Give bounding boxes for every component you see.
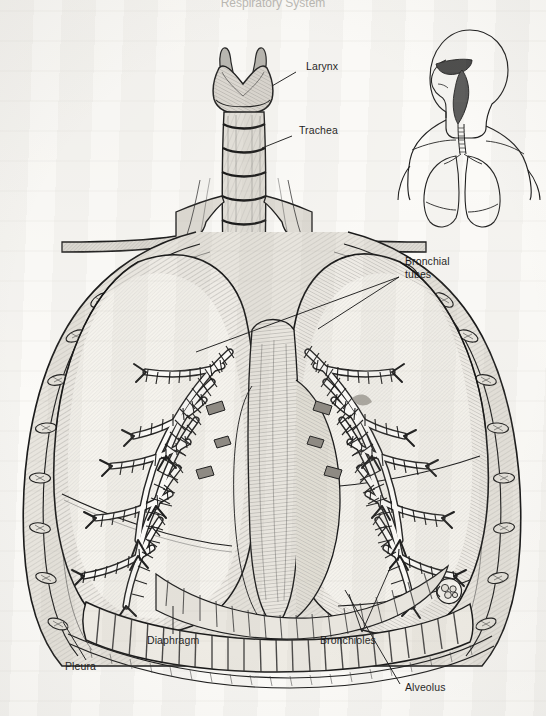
illustration-canvas: Respiratory System Larynx Trachea Bronch… — [0, 0, 546, 716]
leader-trachea — [262, 136, 292, 148]
label-bronchioles: Bronchioles — [320, 634, 376, 647]
label-trachea: Trachea — [299, 124, 338, 137]
label-pleura: Pleura — [65, 660, 96, 673]
label-alveolus: Alveolus — [405, 681, 446, 694]
larynx-structure — [213, 48, 273, 114]
leader-larynx — [272, 72, 296, 86]
inset-orientation-figure — [398, 30, 540, 227]
respiratory-system-figure — [0, 0, 546, 716]
figure-title: Respiratory System — [0, 0, 546, 10]
label-diaphragm: Diaphragm — [147, 634, 199, 647]
label-larynx: Larynx — [306, 60, 338, 73]
label-bronchial-tubes: Bronchial tubes — [405, 255, 450, 280]
